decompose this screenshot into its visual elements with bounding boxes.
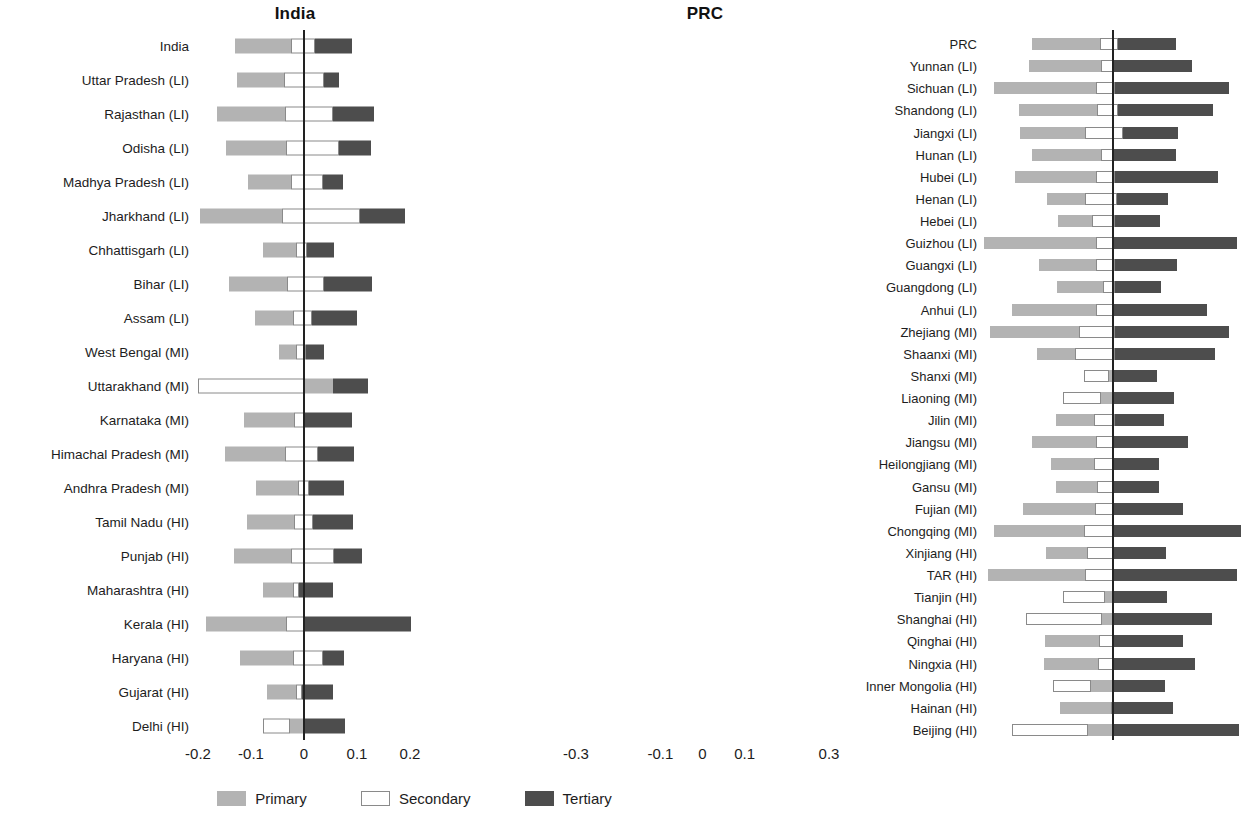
bar-segment-tertiary <box>1114 304 1207 316</box>
bar-segment-primary <box>990 326 1079 338</box>
bar-segment-primary <box>1057 281 1103 293</box>
bar-segment-tertiary <box>1115 414 1165 426</box>
zero-reference-line-india <box>303 30 305 740</box>
stacked-bar <box>229 277 372 292</box>
bar-segment-tertiary <box>1114 60 1192 72</box>
bar-segment-tertiary <box>315 39 352 54</box>
bar-segment-secondary <box>1012 724 1088 736</box>
bar-segment-tertiary <box>333 379 367 394</box>
category-label: Guangxi (LI) <box>905 258 986 273</box>
bar-segment-primary <box>256 481 297 496</box>
bar-segment-secondary <box>1063 392 1101 404</box>
bar-segment-primary <box>1012 304 1096 316</box>
bar-segment-primary <box>1047 193 1085 205</box>
bar-segment-secondary <box>291 175 323 190</box>
bar-segment-tertiary <box>1113 149 1175 161</box>
bar-segment-primary <box>200 209 282 224</box>
stacked-bar <box>1047 193 1168 205</box>
category-label: Zhejiang (MI) <box>900 324 986 339</box>
x-tick-label: -0.3 <box>563 745 589 762</box>
category-label: Fujian (MI) <box>915 501 986 516</box>
bar-segment-tertiary <box>323 651 344 666</box>
category-label: Anhui (LI) <box>921 302 986 317</box>
stacked-bar <box>247 515 353 530</box>
category-label: Guangdong (LI) <box>886 280 986 295</box>
x-tick-label: 0 <box>300 745 308 762</box>
stacked-bar <box>1039 259 1177 271</box>
category-label: Himachal Pradesh (MI) <box>51 447 198 462</box>
bar-segment-tertiary <box>1114 525 1241 537</box>
category-label: Maharashtra (HI) <box>87 583 198 598</box>
stacked-bar <box>984 237 1237 249</box>
bar-segment-tertiary <box>1118 104 1213 116</box>
bar-segment-secondary <box>282 209 360 224</box>
bar-segment-tertiary <box>1113 392 1174 404</box>
bar-segment-tertiary <box>1115 281 1161 293</box>
bar-segment-tertiary <box>1114 458 1160 470</box>
bar-segment-secondary <box>287 277 324 292</box>
stacked-bar <box>267 685 333 700</box>
bar-segment-primary <box>1032 38 1099 50</box>
category-label: Chhattisgarh (LI) <box>88 243 198 258</box>
bar-segment-secondary <box>286 141 339 156</box>
category-label: Andhra Pradesh (MI) <box>64 481 198 496</box>
bar-segment-secondary <box>285 447 318 462</box>
stacked-bar <box>263 243 335 258</box>
stacked-bar <box>1084 370 1157 382</box>
category-label: Uttar Pradesh (LI) <box>82 73 198 88</box>
x-tick-label: -0.2 <box>185 745 211 762</box>
category-label: Punjab (HI) <box>121 549 198 564</box>
bar-segment-tertiary <box>333 107 374 122</box>
category-label: Inner Mongolia (HI) <box>866 678 986 693</box>
bar-segment-primary <box>255 311 293 326</box>
x-tick-label: 0.3 <box>819 745 840 762</box>
bar-segment-tertiary <box>1114 481 1160 493</box>
bar-segment-primary <box>206 617 287 632</box>
bar-segment-secondary <box>293 651 322 666</box>
category-label: Shanxi (MI) <box>911 368 986 383</box>
category-label: Delhi (HI) <box>132 719 198 734</box>
stacked-bar <box>234 549 362 564</box>
x-tick-label: 0 <box>698 745 706 762</box>
category-label: Shandong (LI) <box>895 103 986 118</box>
stacked-bar <box>1063 591 1167 603</box>
bar-segment-secondary <box>1063 591 1105 603</box>
bar-segment-primary <box>234 549 291 564</box>
bar-segment-tertiary <box>1114 237 1237 249</box>
bar-segment-primary <box>1088 724 1113 736</box>
category-label: PRC <box>950 37 986 52</box>
bar-segment-secondary <box>1085 569 1114 581</box>
bar-segment-primary <box>1023 503 1095 515</box>
plot-area-prc: PRCYunnan (LI)Sichuan (LI)Shandong (LI)J… <box>986 30 1239 740</box>
bar-segment-primary <box>263 243 296 258</box>
bar-segment-primary <box>1051 458 1093 470</box>
bar-segment-tertiary <box>1118 38 1176 50</box>
bar-segment-tertiary <box>1114 658 1195 670</box>
stacked-bar <box>1026 613 1212 625</box>
stacked-bar <box>240 651 343 666</box>
bar-segment-primary <box>240 651 293 666</box>
bar-segment-primary <box>1039 259 1096 271</box>
bar-segment-tertiary <box>1114 591 1167 603</box>
stacked-bar <box>1015 171 1218 183</box>
category-label: Hainan (HI) <box>911 700 986 715</box>
bar-segment-secondary <box>291 549 333 564</box>
category-label: Shaanxi (MI) <box>903 346 986 361</box>
legend-swatch-secondary-icon <box>361 791 390 806</box>
bar-segment-primary <box>1091 680 1113 692</box>
category-label: Henan (LI) <box>916 191 986 206</box>
bar-segment-secondary <box>1084 525 1114 537</box>
stacked-bar <box>1063 392 1175 404</box>
bar-segment-tertiary <box>1115 82 1229 94</box>
bar-segment-secondary <box>296 243 307 258</box>
stacked-bar <box>1046 547 1166 559</box>
category-label: Bihar (LI) <box>133 277 198 292</box>
category-label: Ningxia (HI) <box>908 656 986 671</box>
stacked-bar <box>255 311 357 326</box>
bar-segment-tertiary <box>305 617 411 632</box>
bar-segment-primary <box>988 569 1085 581</box>
stacked-bar <box>1056 414 1165 426</box>
stacked-bar <box>1012 724 1239 736</box>
bar-segment-tertiary <box>1115 326 1230 338</box>
stacked-bar <box>279 345 325 360</box>
